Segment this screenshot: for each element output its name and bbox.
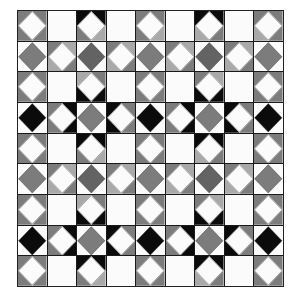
diamond-in-square-icon [254, 256, 283, 286]
blank-square-icon [225, 72, 254, 102]
diamond-tile [254, 256, 283, 286]
plain-tile [107, 256, 136, 286]
diamond-in-square-icon [195, 72, 224, 102]
blank-square-icon [225, 11, 254, 41]
blank-square-icon [48, 72, 77, 102]
blank-square-icon [48, 195, 77, 225]
diamond-in-square-icon [48, 42, 77, 72]
blank-square-icon [107, 256, 136, 286]
plain-tile [48, 11, 77, 41]
diamond-in-square-icon [225, 103, 254, 133]
plain-tile [48, 195, 77, 225]
diamond-tile [48, 103, 77, 133]
diamond-tile [195, 103, 224, 133]
diamond-in-square-icon [77, 195, 106, 225]
diamond-in-square-icon [166, 226, 195, 256]
diamond-in-square-icon [136, 134, 165, 164]
diamond-tile [18, 195, 47, 225]
blank-square-icon [225, 256, 254, 286]
diamond-in-square-icon [195, 42, 224, 72]
diamond-in-square-icon [136, 226, 165, 256]
diamond-in-square-icon [195, 103, 224, 133]
diamond-in-square-icon [254, 164, 283, 194]
diamond-tile [195, 11, 224, 41]
plain-tile [48, 256, 77, 286]
plain-tile [107, 195, 136, 225]
diamond-tile [18, 42, 47, 72]
plain-tile [166, 11, 195, 41]
diamond-tile [77, 134, 106, 164]
blank-square-icon [166, 72, 195, 102]
diamond-tile [48, 226, 77, 256]
diamond-in-square-icon [77, 134, 106, 164]
blank-square-icon [166, 195, 195, 225]
diamond-tile [136, 164, 165, 194]
diamond-tile [48, 164, 77, 194]
diamond-tile [254, 11, 283, 41]
diamond-in-square-icon [254, 226, 283, 256]
diamond-tile [77, 72, 106, 102]
plain-tile [166, 72, 195, 102]
diamond-in-square-icon [18, 11, 47, 41]
blank-square-icon [48, 256, 77, 286]
diamond-tile [195, 134, 224, 164]
diamond-in-square-icon [18, 42, 47, 72]
diamond-in-square-icon [254, 134, 283, 164]
diamond-tile [254, 164, 283, 194]
diamond-in-square-icon [136, 195, 165, 225]
diamond-in-square-icon [225, 42, 254, 72]
diamond-in-square-icon [48, 226, 77, 256]
diamond-in-square-icon [136, 11, 165, 41]
diamond-in-square-icon [195, 11, 224, 41]
diamond-in-square-icon [48, 164, 77, 194]
diamond-in-square-icon [254, 11, 283, 41]
diamond-tile [166, 42, 195, 72]
diamond-tile [225, 103, 254, 133]
plain-tile [225, 72, 254, 102]
diamond-in-square-icon [136, 103, 165, 133]
diamond-tile [254, 72, 283, 102]
diamond-in-square-icon [77, 256, 106, 286]
blank-square-icon [48, 134, 77, 164]
diamond-tile [136, 226, 165, 256]
plain-tile [166, 195, 195, 225]
diamond-tile [225, 226, 254, 256]
blank-square-icon [107, 11, 136, 41]
blank-square-icon [107, 195, 136, 225]
blank-square-icon [166, 256, 195, 286]
diamond-in-square-icon [18, 72, 47, 102]
diamond-tile [77, 42, 106, 72]
diamond-tile [18, 226, 47, 256]
diamond-tile [77, 195, 106, 225]
diamond-in-square-icon [48, 103, 77, 133]
diamond-in-square-icon [18, 195, 47, 225]
diamond-in-square-icon [107, 42, 136, 72]
diamond-in-square-icon [77, 72, 106, 102]
diamond-tile [254, 195, 283, 225]
diamond-in-square-icon [166, 164, 195, 194]
diamond-tile [195, 226, 224, 256]
plain-tile [107, 72, 136, 102]
diamond-tile [254, 103, 283, 133]
plain-tile [225, 195, 254, 225]
diamond-tile [77, 226, 106, 256]
diamond-in-square-icon [107, 226, 136, 256]
diamond-tile [107, 164, 136, 194]
diamond-in-square-icon [225, 226, 254, 256]
diamond-in-square-icon [254, 72, 283, 102]
blank-square-icon [107, 134, 136, 164]
diamond-in-square-icon [195, 226, 224, 256]
diamond-tile [225, 164, 254, 194]
diamond-in-square-icon [254, 195, 283, 225]
diamond-tile [77, 11, 106, 41]
diamond-tile [48, 42, 77, 72]
diamond-in-square-icon [254, 42, 283, 72]
plain-tile [48, 72, 77, 102]
diamond-tile [107, 226, 136, 256]
plain-tile [225, 134, 254, 164]
blank-square-icon [166, 134, 195, 164]
diamond-tile [18, 134, 47, 164]
diamond-tile [254, 226, 283, 256]
diamond-tile [195, 164, 224, 194]
diamond-in-square-icon [254, 103, 283, 133]
